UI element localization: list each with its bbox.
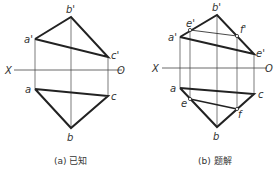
label-e-prime: e' bbox=[186, 18, 195, 29]
label-c-prime: e' bbox=[256, 48, 265, 59]
label-a-prime: a' bbox=[24, 34, 33, 45]
front-view-abc bbox=[35, 17, 108, 57]
label-c: c bbox=[258, 89, 264, 100]
projection-diagram: b' a' c' X O a c b (a) 已知 b' e' a' f' e'… bbox=[0, 0, 277, 175]
label-f-prime: f' bbox=[240, 24, 246, 35]
figure-b: b' e' a' f' e' X O a c e f b (b) 题解 bbox=[151, 2, 273, 166]
label-x-axis: X bbox=[4, 65, 13, 76]
point-f-prime bbox=[235, 34, 238, 37]
label-a: a bbox=[25, 84, 31, 95]
label-b: b bbox=[67, 132, 73, 143]
label-f: f bbox=[238, 109, 243, 120]
label-a-prime: a' bbox=[168, 32, 177, 43]
caption-b: (b) 题解 bbox=[198, 155, 232, 166]
top-view-abc bbox=[35, 89, 108, 128]
label-o-axis: O bbox=[265, 63, 273, 74]
point-e bbox=[188, 97, 191, 100]
label-o-axis: O bbox=[117, 65, 125, 76]
label-c-prime: c' bbox=[111, 50, 119, 61]
caption-a: (a) 已知 bbox=[54, 155, 87, 166]
label-x-axis: X bbox=[151, 63, 160, 74]
figure-a: b' a' c' X O a c b (a) 已知 bbox=[4, 4, 125, 166]
line-e-prime-f-prime bbox=[190, 30, 237, 36]
label-b-prime: b' bbox=[212, 2, 221, 13]
label-a: a bbox=[170, 83, 176, 94]
label-b-prime: b' bbox=[66, 4, 75, 15]
label-c: c bbox=[111, 91, 117, 102]
label-e: e bbox=[181, 98, 187, 109]
label-b: b bbox=[213, 131, 219, 142]
line-e-f bbox=[190, 99, 237, 109]
